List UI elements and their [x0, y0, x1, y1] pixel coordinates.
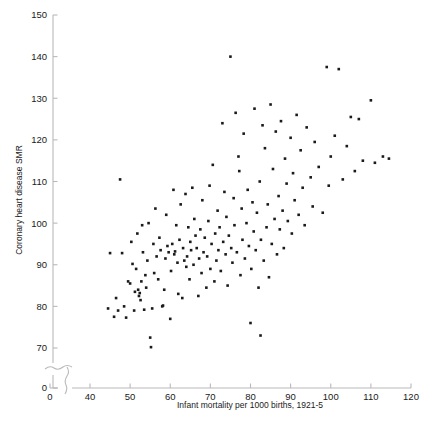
data-point: [237, 155, 240, 158]
data-point: [138, 292, 141, 295]
x-tick-label: 50: [125, 391, 136, 402]
data-point: [232, 197, 235, 200]
data-point: [134, 291, 137, 294]
data-point: [283, 247, 286, 250]
data-point: [197, 295, 200, 298]
data-point: [246, 189, 249, 192]
data-point: [350, 116, 353, 119]
y-tick-label: 110: [32, 176, 47, 187]
data-point: [222, 241, 225, 244]
data-point: [184, 193, 187, 196]
data-point: [149, 336, 152, 339]
data-point: [291, 232, 294, 235]
data-point: [167, 251, 170, 254]
data-point: [252, 230, 255, 233]
data-point: [268, 276, 271, 279]
x-tick-label: 60: [165, 391, 176, 402]
data-point: [281, 209, 284, 212]
data-point: [214, 232, 217, 235]
y-tick-label: 80: [36, 301, 47, 312]
scatter-plot-figure: 7080901001101201301401500 40506070809010…: [0, 0, 432, 435]
data-point: [251, 201, 254, 204]
y-tick-label: 130: [31, 93, 47, 104]
data-point: [186, 255, 189, 258]
data-point: [151, 307, 154, 310]
data-point: [297, 214, 300, 217]
data-point: [262, 259, 265, 262]
data-point: [135, 268, 138, 271]
data-point: [153, 272, 156, 275]
data-point: [374, 161, 377, 164]
x-tick-label: 110: [363, 391, 378, 402]
data-point: [329, 155, 332, 158]
data-point: [107, 307, 110, 310]
data-point: [253, 107, 256, 110]
data-point: [250, 268, 253, 271]
data-point: [171, 243, 174, 246]
data-point: [130, 241, 133, 244]
data-point: [109, 252, 112, 255]
data-point: [276, 253, 279, 256]
data-point: [264, 147, 267, 150]
data-point: [146, 259, 149, 262]
data-point: [141, 224, 144, 227]
data-point: [129, 282, 132, 285]
y-origin-tick-label: 0: [42, 382, 47, 393]
data-point: [327, 184, 330, 187]
data-point: [202, 251, 205, 254]
x-tick-label: 40: [85, 391, 96, 402]
data-point: [341, 178, 344, 181]
data-point: [188, 278, 191, 281]
x-tick-label: 120: [403, 391, 419, 402]
y-tick-label: 100: [31, 218, 47, 229]
data-point: [305, 126, 308, 129]
data-point: [211, 164, 214, 167]
data-point: [152, 243, 155, 246]
data-point: [136, 232, 139, 235]
data-point: [325, 66, 328, 69]
data-point: [236, 251, 239, 254]
data-point: [121, 252, 124, 255]
data-point: [311, 205, 314, 208]
data-point: [177, 293, 180, 296]
data-point: [346, 145, 349, 148]
data-point: [299, 149, 302, 152]
data-point: [198, 257, 201, 260]
data-point: [362, 159, 365, 162]
data-point: [194, 234, 197, 237]
data-point: [193, 218, 196, 221]
data-point: [162, 304, 165, 307]
data-point: [321, 211, 324, 214]
data-point: [278, 228, 281, 231]
data-point: [113, 315, 116, 318]
data-point: [159, 249, 162, 252]
data-point: [117, 309, 120, 312]
data-point: [260, 238, 263, 241]
data-point: [239, 274, 242, 277]
data-point: [224, 253, 227, 256]
data-point: [277, 195, 280, 198]
data-point: [189, 241, 192, 244]
data-point: [154, 207, 157, 210]
data-point: [292, 172, 295, 175]
data-point: [301, 186, 304, 189]
data-point: [259, 334, 262, 337]
data-point: [205, 286, 208, 289]
data-point: [287, 220, 290, 223]
data-point: [284, 157, 287, 160]
data-point: [163, 288, 166, 291]
data-point: [192, 263, 195, 266]
data-point: [270, 243, 273, 246]
data-point: [337, 68, 340, 71]
data-point: [244, 257, 247, 260]
data-point: [178, 238, 181, 241]
data-point: [242, 132, 245, 135]
data-point: [295, 114, 298, 117]
data-point: [213, 280, 216, 283]
data-point: [257, 286, 260, 289]
data-point: [309, 176, 312, 179]
data-point: [258, 180, 261, 183]
data-point: [317, 166, 320, 169]
y-tick-label: 150: [31, 9, 47, 20]
data-point: [179, 203, 182, 206]
